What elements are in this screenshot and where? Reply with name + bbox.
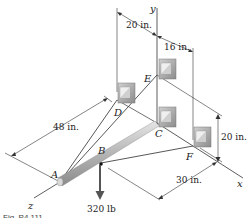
point-label-c: C <box>155 128 163 139</box>
bracket-e <box>159 59 176 79</box>
bracket-c <box>159 107 176 127</box>
dim-left-diagonal-label: 48 in. <box>53 122 79 132</box>
bracket-f <box>194 127 211 147</box>
y-axis-label: y <box>149 3 156 14</box>
point-label-f: F <box>185 151 194 162</box>
z-axis-label: z <box>27 200 34 211</box>
dim-right-vertical-label: 20 in. <box>221 132 247 142</box>
dim-top-right-label: 16 in. <box>164 42 190 52</box>
dim-top-left: 20 in. <box>117 12 157 36</box>
point-label-b: B <box>97 145 105 156</box>
load-label: 320 lb <box>87 204 116 214</box>
dim-bottom-right: 30 in. <box>158 162 217 199</box>
point-label-e: E <box>143 73 152 84</box>
load-arrow: 320 lb <box>87 165 116 214</box>
z-axis: z <box>27 182 60 211</box>
figure-caption: Fig. P4.111 <box>3 213 43 218</box>
wall-edge-dc <box>117 100 157 123</box>
dim-left-diagonal: 48 in. <box>11 96 112 156</box>
dimension-extension-lines <box>5 8 222 200</box>
bracket-d <box>118 83 135 103</box>
point-label-d: D <box>113 107 122 118</box>
dim-bottom-right-label: 30 in. <box>176 175 202 185</box>
point-label-a: A <box>50 169 58 180</box>
x-axis-label: x <box>237 178 243 189</box>
statics-diagram: y x z <box>0 0 247 218</box>
dim-top-right: 16 in. <box>157 36 193 52</box>
dim-top-left-label: 20 in. <box>126 20 152 30</box>
